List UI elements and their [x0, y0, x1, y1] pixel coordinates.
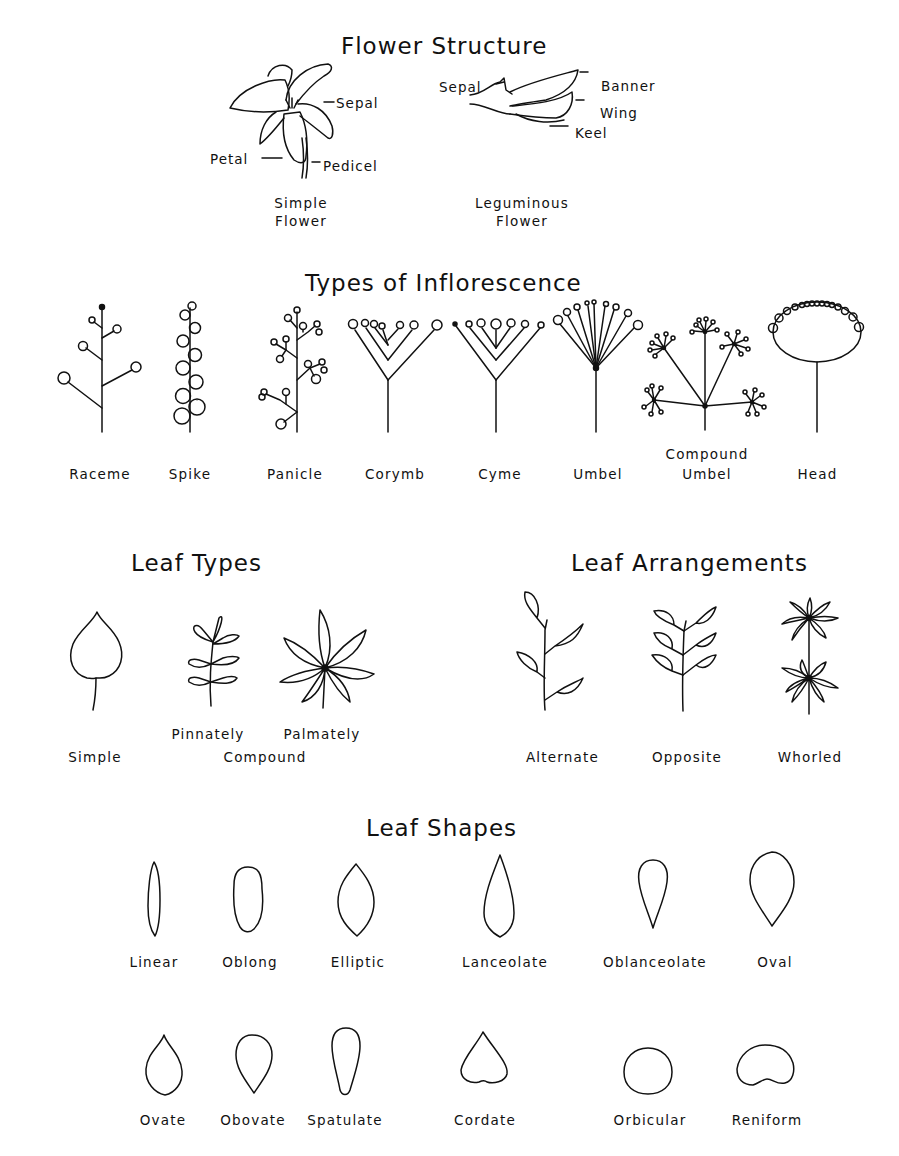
elliptic-shape-illustration [334, 862, 378, 938]
orbicular-label: Orbicular [600, 1112, 700, 1128]
oblanceolate-label: Oblanceolate [595, 954, 715, 970]
corymb-illustration [345, 300, 445, 435]
leaf-shapes-title: Leaf Shapes [366, 815, 517, 841]
orbicular-shape-illustration [622, 1046, 674, 1096]
oblong-label: Oblong [210, 954, 290, 970]
umbel-illustration [550, 300, 645, 435]
simple-leaf-illustration [65, 610, 125, 710]
compound-umbel-label-2: Umbel [652, 466, 762, 482]
cyme-label: Cyme [465, 466, 535, 482]
leguminous-wing-label: Wing [600, 105, 638, 121]
corymb-label: Corymb [350, 466, 440, 482]
palmately-compound-leaf-illustration [278, 608, 378, 708]
obovate-shape-illustration [234, 1033, 274, 1095]
lanceolate-label: Lanceolate [445, 954, 565, 970]
elliptic-label: Elliptic [318, 954, 398, 970]
leguminous-banner-label: Banner [601, 78, 656, 94]
leaf-types-title: Leaf Types [131, 550, 262, 576]
whorled-label: Whorled [765, 749, 855, 765]
lanceolate-shape-illustration [480, 853, 520, 939]
linear-label: Linear [118, 954, 190, 970]
compound-label: Compound [215, 749, 315, 765]
spatulate-label: Spatulate [300, 1112, 390, 1128]
compound-umbel-illustration [642, 318, 772, 428]
head-illustration [765, 300, 870, 435]
simple-flower-caption-1: Simple [258, 195, 344, 211]
alternate-label: Alternate [515, 749, 610, 765]
spike-label: Spike [160, 466, 220, 482]
panicle-label: Panicle [255, 466, 335, 482]
head-label: Head [775, 466, 860, 482]
panicle-illustration [250, 300, 335, 435]
pinnately-compound-leaf-illustration [185, 612, 245, 707]
oval-label: Oval [735, 954, 815, 970]
obovate-label: Obovate [213, 1112, 293, 1128]
simple-flower-sepal-label: Sepal [336, 95, 378, 111]
leguminous-flower-caption-1: Leguminous [462, 195, 582, 211]
cordate-label: Cordate [440, 1112, 530, 1128]
leguminous-sepal-label: Sepal [439, 79, 481, 95]
spatulate-shape-illustration [328, 1026, 364, 1098]
compound-umbel-label-1: Compound [652, 446, 762, 462]
leaf-arrangements-title: Leaf Arrangements [571, 550, 808, 576]
oval-shape-illustration [748, 850, 798, 930]
spike-illustration [165, 300, 215, 435]
oblong-shape-illustration [228, 865, 268, 935]
simple-flower-pedicel-label: Pedicel [323, 158, 378, 174]
raceme-illustration [50, 300, 150, 435]
simple-flower-petal-label: Petal [210, 151, 248, 167]
raceme-label: Raceme [60, 466, 140, 482]
simple-leaf-label: Simple [50, 749, 140, 765]
leguminous-flower-caption-2: Flower [462, 213, 582, 229]
oblanceolate-shape-illustration [635, 858, 671, 930]
pinnately-label: Pinnately [168, 726, 248, 742]
leguminous-keel-label: Keel [575, 125, 608, 141]
umbel-label: Umbel [558, 466, 638, 482]
whorled-arrangement-illustration [778, 598, 840, 716]
ovate-label: Ovate [128, 1112, 198, 1128]
reniform-label: Reniform [722, 1112, 812, 1128]
palmately-label: Palmately [277, 726, 367, 742]
reniform-shape-illustration [735, 1043, 797, 1093]
ovate-shape-illustration [143, 1033, 187, 1097]
cordate-shape-illustration [459, 1030, 511, 1086]
inflorescence-title: Types of Inflorescence [305, 270, 582, 296]
opposite-label: Opposite [637, 749, 737, 765]
flower-structure-title: Flower Structure [341, 33, 547, 59]
cyme-illustration [450, 300, 550, 435]
opposite-arrangement-illustration [650, 605, 720, 715]
linear-shape-illustration [140, 860, 170, 940]
alternate-arrangement-illustration [515, 588, 605, 713]
simple-flower-caption-2: Flower [258, 213, 344, 229]
